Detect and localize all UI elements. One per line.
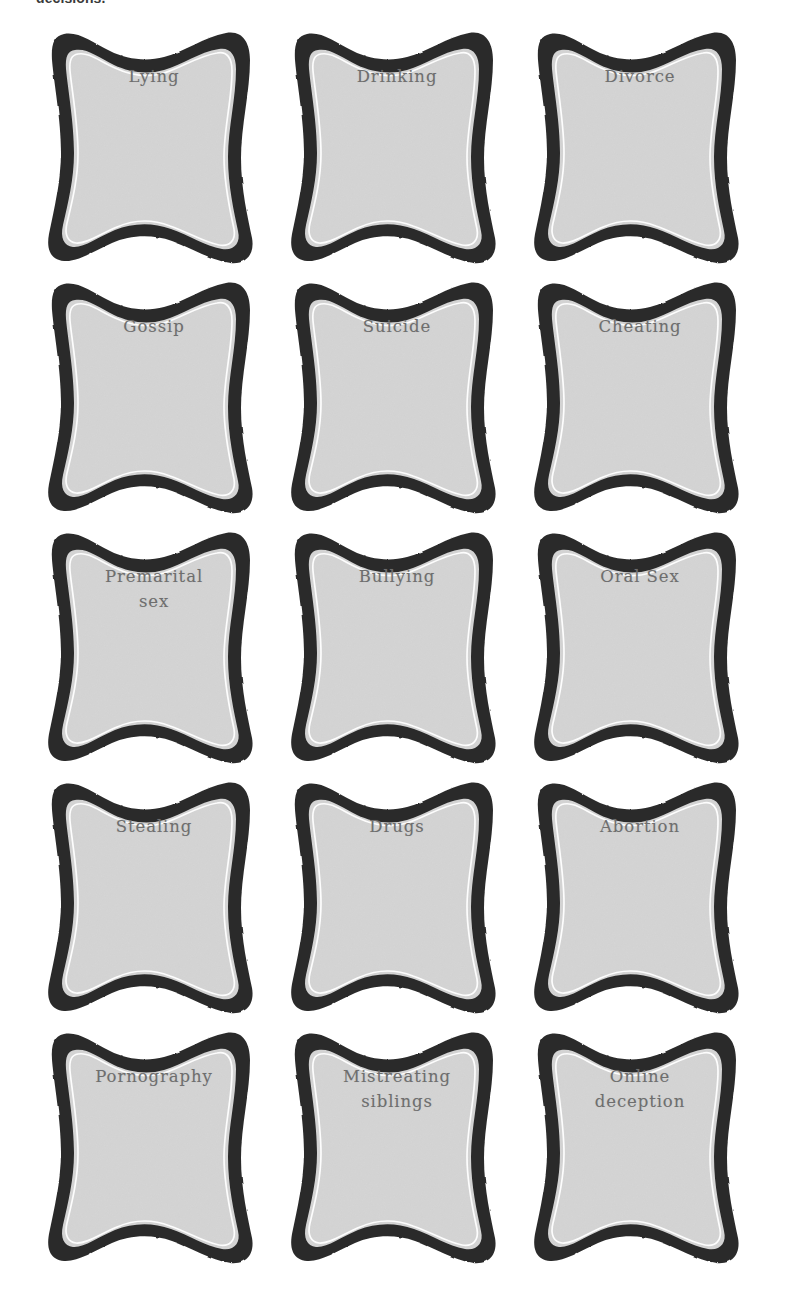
- card-label: Online deception: [546, 1064, 734, 1114]
- card-label: Drugs: [303, 814, 491, 839]
- topic-card[interactable]: Bullying: [277, 522, 517, 772]
- card-plaque-shape: [34, 1022, 274, 1272]
- card-label: Bullying: [303, 564, 491, 589]
- topic-card[interactable]: Stealing: [34, 772, 274, 1022]
- topic-card[interactable]: Oral Sex: [520, 522, 760, 772]
- topic-card[interactable]: Premarital sex: [34, 522, 274, 772]
- card-label: Gossip: [60, 314, 248, 339]
- card-label: Pornography: [60, 1064, 248, 1089]
- card-plaque-shape: [520, 272, 760, 522]
- topic-card-grid: Lying: [0, 22, 794, 1272]
- card-plaque-shape: [277, 772, 517, 1022]
- card-plaque-shape: [34, 272, 274, 522]
- topic-card[interactable]: Abortion: [520, 772, 760, 1022]
- topic-card[interactable]: Mistreating siblings: [277, 1022, 517, 1272]
- card-plaque-shape: [34, 22, 274, 272]
- topic-card[interactable]: Pornography: [34, 1022, 274, 1272]
- card-label: Abortion: [546, 814, 734, 839]
- card-label: Mistreating siblings: [303, 1064, 491, 1114]
- topic-card[interactable]: Drugs: [277, 772, 517, 1022]
- topic-card[interactable]: Divorce: [520, 22, 760, 272]
- topic-card[interactable]: Gossip: [34, 272, 274, 522]
- topic-card[interactable]: Lying: [34, 22, 274, 272]
- card-plaque-shape: [34, 522, 274, 772]
- card-plaque-shape: [277, 1022, 517, 1272]
- topic-card[interactable]: Online deception: [520, 1022, 760, 1272]
- card-label: Stealing: [60, 814, 248, 839]
- card-plaque-shape: [520, 22, 760, 272]
- card-plaque-shape: [277, 22, 517, 272]
- card-label: Drinking: [303, 64, 491, 89]
- card-plaque-shape: [520, 522, 760, 772]
- card-plaque-shape: [520, 1022, 760, 1272]
- card-plaque-shape: [34, 772, 274, 1022]
- card-label: Oral Sex: [546, 564, 734, 589]
- topic-card[interactable]: Cheating: [520, 272, 760, 522]
- card-label: Lying: [60, 64, 248, 89]
- page-root: decisions.: [0, 0, 794, 1308]
- card-label: Divorce: [546, 64, 734, 89]
- card-label: Suicide: [303, 314, 491, 339]
- topic-card[interactable]: Suicide: [277, 272, 517, 522]
- card-plaque-shape: [520, 772, 760, 1022]
- card-plaque-shape: [277, 522, 517, 772]
- clipped-heading-text: decisions.: [36, 0, 336, 6]
- card-label: Premarital sex: [60, 564, 248, 614]
- card-plaque-shape: [277, 272, 517, 522]
- card-label: Cheating: [546, 314, 734, 339]
- topic-card[interactable]: Drinking: [277, 22, 517, 272]
